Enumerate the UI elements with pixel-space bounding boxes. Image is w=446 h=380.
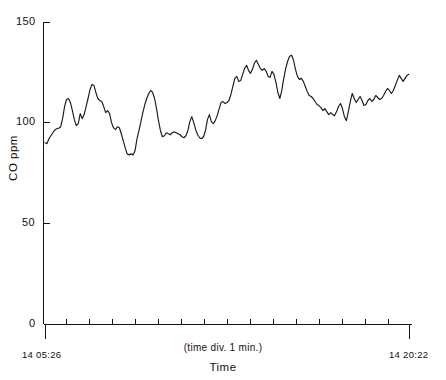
y-tick-label-100: 100	[16, 115, 36, 127]
x-axis-title: Time	[0, 361, 446, 373]
x-axis-ticks	[67, 319, 389, 325]
co-ppm-time-series-chart: 150 100 50 0 CO ppm 14 05:26 14 20:22 (t…	[0, 0, 446, 380]
y-tick-label-0: 0	[29, 317, 36, 329]
y-tick-label-50: 50	[22, 216, 35, 228]
plot-area	[0, 0, 446, 380]
x-axis-division-note: (time div. 1 min.)	[0, 342, 446, 353]
co-concentration-line	[45, 55, 409, 155]
y-tick-label-150: 150	[16, 15, 36, 27]
x-axis-endpoint-ticks	[46, 325, 410, 340]
y-axis-ticks	[44, 23, 50, 325]
y-axis-title: CO ppm	[7, 128, 19, 188]
